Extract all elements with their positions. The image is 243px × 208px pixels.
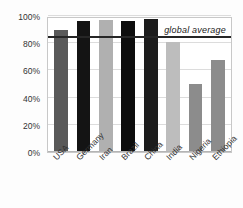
global-average-label: global average (164, 25, 226, 35)
global-average-line (48, 36, 231, 38)
y-tick-label: 20% (23, 121, 40, 131)
bar-chart-figure: 0%20%40%60%80%100% global average USAGer… (0, 0, 243, 208)
bar-india (166, 42, 180, 152)
bar-usa (54, 30, 68, 152)
bar-slot (72, 18, 94, 152)
bar-series (48, 18, 231, 152)
bar-slot (117, 18, 139, 152)
bar-ethiopia (211, 60, 225, 152)
y-axis: 0%20%40%60%80%100% (0, 17, 44, 153)
gridline (48, 15, 231, 16)
bar-slot (184, 18, 206, 152)
y-tick-label: 40% (23, 94, 40, 104)
bar-brazil (121, 21, 135, 152)
plot-area: global average (47, 17, 232, 153)
y-tick-label: 0% (28, 148, 40, 158)
x-axis: USAGermanyIranBrazilChinaIndiaNigeriaEth… (47, 155, 232, 207)
bar-slot (140, 18, 162, 152)
bar-slot (207, 18, 229, 152)
bar-slot (162, 18, 184, 152)
y-tick-label: 100% (18, 12, 40, 22)
bar-germany (77, 21, 91, 152)
y-tick-label: 80% (23, 39, 40, 49)
y-tick-label: 60% (23, 66, 40, 76)
bar-china (144, 19, 158, 152)
bar-slot (50, 18, 72, 152)
